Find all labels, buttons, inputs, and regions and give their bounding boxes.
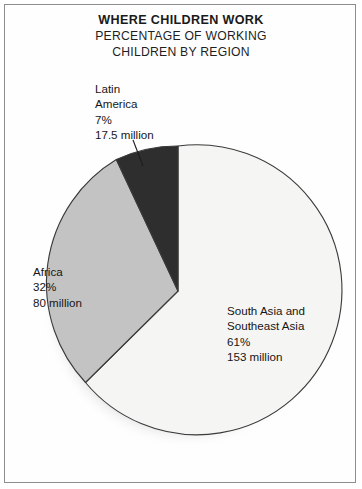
latin-america-count: 17.5 million [95,127,154,142]
slice-label-south-asia: South Asia and Southeast Asia 61% 153 mi… [227,303,305,365]
africa-percent: 32% [33,279,82,294]
south-asia-name-line-1: South Asia and [227,303,305,318]
pie-chart-figure: WHERE CHILDREN WORK PERCENTAGE OF WORKIN… [0,0,362,489]
south-asia-percent: 61% [227,334,305,349]
slice-label-africa: Africa 32% 80 million [33,264,82,310]
africa-count: 80 million [33,295,82,310]
africa-name-line-1: Africa [33,264,82,279]
pie-plot-area [0,0,362,489]
latin-america-name-line-2: America [95,96,154,111]
south-asia-name-line-2: Southeast Asia [227,318,305,333]
south-asia-count: 153 million [227,349,305,364]
latin-america-percent: 7% [95,112,154,127]
pie-svg [0,0,362,489]
latin-america-name-line-1: Latin [95,81,154,96]
slice-label-latin-america: Latin America 7% 17.5 million [95,81,154,143]
